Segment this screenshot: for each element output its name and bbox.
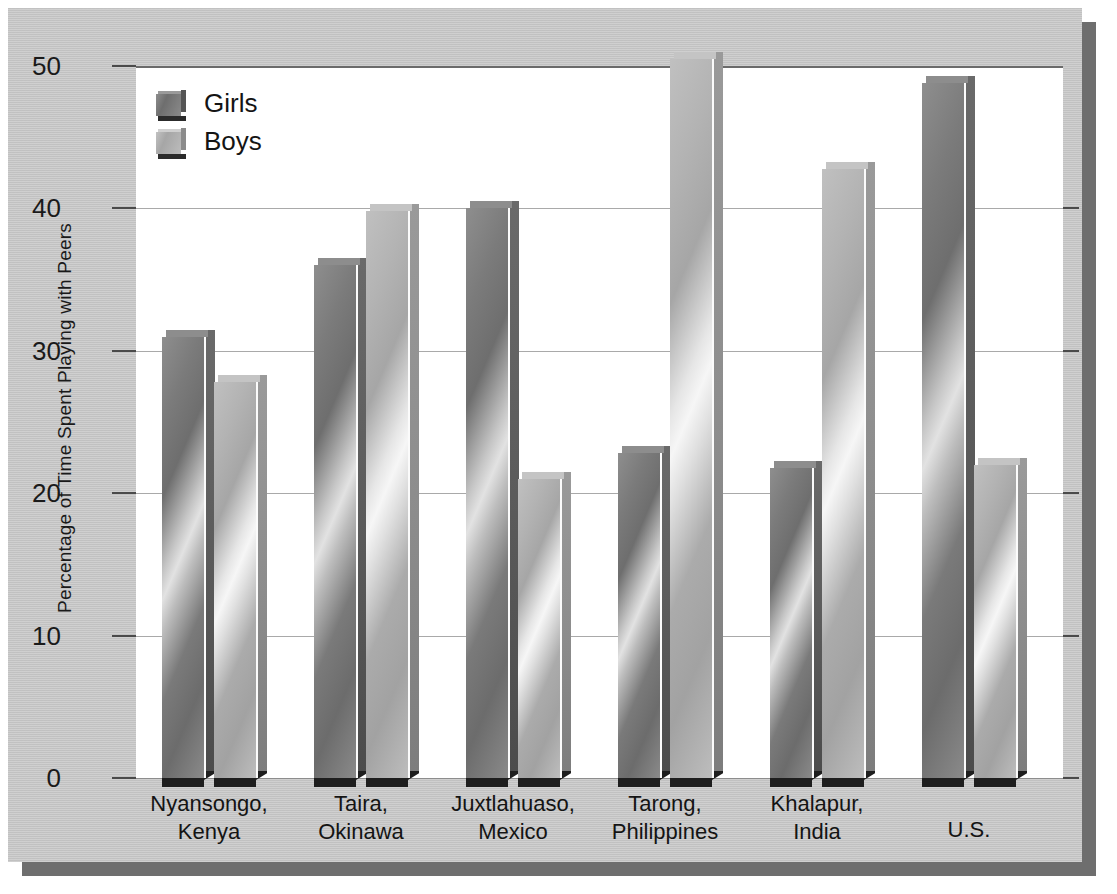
y-tick-mark-40 [112,207,136,209]
bar-seam [356,265,358,778]
legend: Girls Boys [156,84,262,160]
chart-card: 50403020100 Percentage of Time Spent Pla… [8,8,1082,862]
x-axis-label-2: Juxtlahuaso,Mexico [451,790,575,845]
bar-seam [508,208,510,778]
bar-seam [864,169,866,778]
bar-top-face [318,258,360,265]
x-axis-label-3: Tarong,Philippines [612,790,718,845]
bar-base-shadow [670,778,712,787]
bar-boys-1 [366,211,408,778]
bar-girls-3 [618,453,660,778]
bar-girls-4 [770,468,812,778]
y-tick-mark-right-20 [1063,492,1079,494]
x-axis-label-5: U.S. [948,816,991,844]
bar-seam [712,59,714,778]
x-axis-label-1: Taira,Okinawa [318,790,404,845]
bar-base-shadow [922,778,964,787]
legend-label-girls: Girls [204,88,257,119]
y-axis-title: Percentage of Time Spent Playing with Pe… [54,68,76,768]
bar-front-face [366,211,408,778]
bar-front-face [466,208,508,778]
y-tick-mark-20 [112,492,136,494]
bar-seam [256,382,258,778]
legend-item-girls: Girls [156,84,262,122]
x-axis-label-0: Nyansongo,Kenya [150,790,267,845]
bar-base-shadow [366,778,408,787]
plot-area [136,66,1063,778]
gridline-50 [136,66,1063,68]
x-axis-label-line2: Okinawa [318,818,404,846]
bar-base-shadow [974,778,1016,787]
bar-seam [660,453,662,778]
bar-top-face [826,162,868,169]
bar-top-face [522,472,564,479]
x-axis-label-line2: Kenya [150,818,267,846]
y-tick-mark-50 [112,65,136,67]
bar-seam [812,468,814,778]
chart-figure: 50403020100 Percentage of Time Spent Pla… [0,0,1117,894]
bar-top-face [218,375,260,382]
y-tick-mark-10 [112,635,136,637]
bar-base-shadow [618,778,660,787]
bar-top-face [470,201,512,208]
bar-girls-2 [466,208,508,778]
y-axis-title-wrap: Percentage of Time Spent Playing with Pe… [54,68,80,768]
x-axis-label-line1: Taira, [318,790,404,818]
bar-front-face [314,265,356,778]
bar-base-shadow [214,778,256,787]
bar-front-face [770,468,812,778]
x-axis-labels: Nyansongo,KenyaTaira,OkinawaJuxtlahuaso,… [136,790,1063,860]
bar-seam [204,337,206,778]
y-tick-mark-right-30 [1063,350,1079,352]
bar-base-shadow [770,778,812,787]
bar-top-face [622,446,664,453]
bar-seam [560,479,562,778]
bar-top-face [674,52,716,59]
bar-top-face [774,461,816,468]
bar-base-shadow [518,778,560,787]
bar-top-face [978,458,1020,465]
x-axis-label-line1: Juxtlahuaso, [451,790,575,818]
legend-swatch-boys-icon [156,128,186,154]
x-axis-label-line1: U.S. [948,816,991,844]
bar-front-face [670,59,712,778]
bar-seam [408,211,410,778]
x-axis-label-line2: Philippines [612,818,718,846]
bar-base-shadow [162,778,204,787]
y-tick-mark-30 [112,350,136,352]
bar-girls-5 [922,83,964,778]
y-tick-label-0: 0 [47,765,61,791]
legend-swatch-girls-icon [156,90,186,116]
bar-girls-1 [314,265,356,778]
bar-front-face [974,465,1016,778]
bar-boys-0 [214,382,256,778]
x-axis-label-line1: Tarong, [612,790,718,818]
bar-top-face [926,76,968,83]
x-axis-label-line1: Nyansongo, [150,790,267,818]
bar-front-face [162,337,204,778]
legend-label-boys: Boys [204,126,262,157]
bar-seam [964,83,966,778]
x-axis-label-4: Khalapur,India [771,790,864,845]
bar-boys-5 [974,465,1016,778]
bar-base-shadow [822,778,864,787]
y-tick-mark-right-40 [1063,207,1079,209]
bar-front-face [822,169,864,778]
bar-base-shadow [466,778,508,787]
bar-boys-4 [822,169,864,778]
bar-front-face [922,83,964,778]
x-axis-label-line2: India [771,818,864,846]
legend-item-boys: Boys [156,122,262,160]
x-axis-label-line1: Khalapur, [771,790,864,818]
bar-top-face [166,330,208,337]
y-tick-mark-right-10 [1063,635,1079,637]
bar-boys-3 [670,59,712,778]
x-axis-label-line2: Mexico [451,818,575,846]
bar-front-face [214,382,256,778]
y-tick-mark-0 [112,777,136,779]
bar-front-face [618,453,660,778]
bar-seam [1016,465,1018,778]
bar-boys-2 [518,479,560,778]
y-tick-mark-right-0 [1063,777,1079,779]
bar-girls-0 [162,337,204,778]
